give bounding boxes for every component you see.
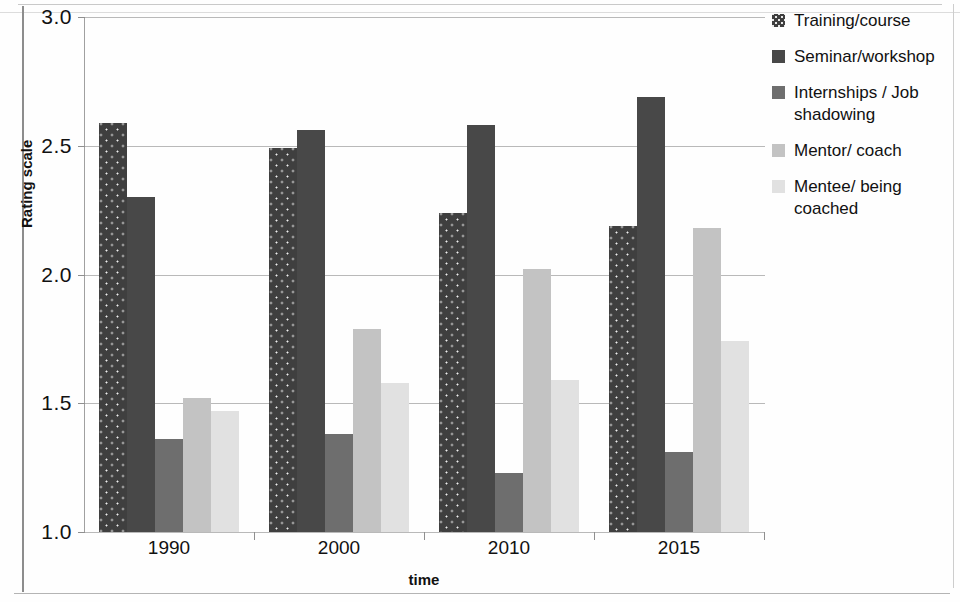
legend-item[interactable]: Seminar/workshop bbox=[772, 46, 952, 68]
plot-area: 1.01.52.02.53.0 bbox=[84, 17, 764, 532]
legend-item[interactable]: Mentee/ being coached bbox=[772, 176, 952, 220]
legend-label: Internships / Job shadowing bbox=[794, 82, 952, 126]
bar bbox=[155, 439, 183, 532]
bar bbox=[439, 213, 467, 532]
legend-item[interactable]: Internships / Job shadowing bbox=[772, 82, 952, 126]
y-tick-label: 2.0 bbox=[41, 263, 72, 287]
legend-label: Training/course bbox=[794, 10, 911, 32]
x-axis-title: time bbox=[84, 571, 764, 588]
bar bbox=[325, 434, 353, 532]
bar bbox=[693, 228, 721, 532]
figure-frame-right bbox=[953, 4, 954, 588]
chart-page: Rating scale time 1.01.52.02.53.0 199020… bbox=[0, 0, 960, 602]
legend-swatch-icon bbox=[772, 86, 785, 99]
bar bbox=[99, 123, 127, 532]
legend-label: Mentee/ being coached bbox=[794, 176, 952, 220]
x-axis-tick bbox=[424, 532, 425, 540]
y-axis-tick bbox=[78, 532, 85, 533]
chart-legend: Training/courseSeminar/workshopInternshi… bbox=[772, 10, 952, 234]
scan-artifact-line bbox=[18, 4, 942, 5]
bar-group bbox=[594, 17, 764, 532]
x-axis-tick bbox=[254, 532, 255, 540]
bar bbox=[127, 197, 155, 532]
legend-swatch-icon bbox=[772, 50, 785, 63]
x-tick-label: 2010 bbox=[488, 537, 530, 559]
bar bbox=[665, 452, 693, 532]
y-tick-label: 3.0 bbox=[41, 5, 72, 29]
bar bbox=[609, 226, 637, 532]
y-axis-title: Rating scale bbox=[18, 140, 35, 228]
bar bbox=[551, 380, 579, 532]
x-tick-label: 1990 bbox=[148, 537, 190, 559]
x-tick-label: 2000 bbox=[318, 537, 360, 559]
bar bbox=[721, 341, 749, 532]
bar-group bbox=[424, 17, 594, 532]
figure-frame-bottom bbox=[14, 593, 950, 594]
bar bbox=[523, 269, 551, 532]
legend-swatch-icon bbox=[772, 144, 785, 157]
x-tick-label: 2015 bbox=[658, 537, 700, 559]
legend-label: Mentor/ coach bbox=[794, 140, 902, 162]
bar-group bbox=[84, 17, 254, 532]
y-tick-label: 1.0 bbox=[41, 520, 72, 544]
bar bbox=[183, 398, 211, 532]
x-axis-tick bbox=[764, 532, 765, 540]
bar bbox=[211, 411, 239, 532]
bar bbox=[297, 130, 325, 532]
legend-swatch-icon bbox=[772, 180, 785, 193]
legend-swatch-icon bbox=[772, 14, 785, 27]
bar bbox=[495, 473, 523, 532]
legend-item[interactable]: Mentor/ coach bbox=[772, 140, 952, 162]
legend-item[interactable]: Training/course bbox=[772, 10, 952, 32]
bar bbox=[269, 148, 297, 532]
y-tick-label: 1.5 bbox=[41, 391, 72, 415]
bar bbox=[381, 383, 409, 532]
bar bbox=[353, 329, 381, 532]
legend-label: Seminar/workshop bbox=[794, 46, 935, 68]
y-tick-label: 2.5 bbox=[41, 134, 72, 158]
x-axis-tick bbox=[594, 532, 595, 540]
bar bbox=[467, 125, 495, 532]
bar bbox=[637, 97, 665, 532]
bar-group bbox=[254, 17, 424, 532]
